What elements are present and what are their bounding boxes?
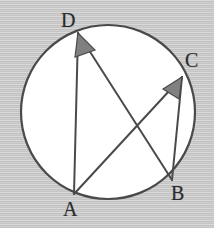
vertex-label-b: B (171, 183, 184, 203)
geometry-figure-canvas: D C A B (0, 0, 214, 228)
main-circle (21, 25, 195, 199)
vertex-label-a: A (63, 199, 77, 219)
vertex-label-d: D (61, 10, 75, 30)
vertex-label-c: C (185, 50, 198, 70)
